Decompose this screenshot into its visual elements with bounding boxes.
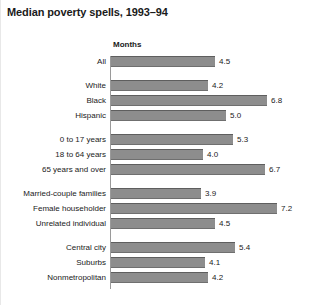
bar-value-label: 5.0 (230, 111, 241, 121)
bar-category-label: All (0, 57, 106, 67)
bar-value-label: 5.4 (239, 243, 250, 253)
bar-value-label: 4.1 (209, 258, 220, 268)
bar-row: Female householder7.2 (1, 203, 319, 215)
bar-row: Central city5.4 (1, 242, 319, 254)
bar (111, 80, 208, 91)
bar-category-label: Hispanic (0, 111, 106, 121)
bar (111, 257, 205, 268)
bar-category-label: Nonmetropolitan (0, 273, 106, 283)
axis-unit-header: Months (113, 40, 141, 49)
bar-category-label: Married-couple families (0, 189, 106, 199)
bar-row: 0 to 17 years5.3 (1, 134, 319, 146)
chart-title: Median poverty spells, 1993–94 (7, 6, 168, 18)
bar-row: All4.5 (1, 56, 319, 68)
bar-row: 65 years and over6.7 (1, 164, 319, 176)
bar-row: White4.2 (1, 80, 319, 92)
bar (111, 56, 215, 67)
bar (111, 203, 277, 214)
bar-value-label: 6.8 (271, 96, 282, 106)
bar-value-label: 4.0 (207, 150, 218, 160)
bar (111, 218, 215, 229)
plot-area: All4.5White4.2Black6.8Hispanic5.00 to 17… (1, 56, 319, 296)
bar (111, 110, 226, 121)
chart-figure: Median poverty spells, 1993–94 Months Al… (0, 0, 319, 305)
bar (111, 149, 203, 160)
bar-category-label: Female householder (0, 204, 106, 214)
bar-value-label: 3.9 (205, 189, 216, 199)
bar-value-label: 4.5 (219, 219, 230, 229)
bar (111, 164, 265, 175)
bar-category-label: Suburbs (0, 258, 106, 268)
bar (111, 188, 201, 199)
bar-category-label: 0 to 17 years (0, 135, 106, 145)
bar-category-label: Black (0, 96, 106, 106)
bar-value-label: 4.2 (212, 273, 223, 283)
bar-row: Suburbs4.1 (1, 257, 319, 269)
bar (111, 134, 233, 145)
bar-value-label: 4.5 (219, 57, 230, 67)
bar-category-label: 65 years and over (0, 165, 106, 175)
bar-value-label: 6.7 (269, 165, 280, 175)
bar-value-label: 4.2 (212, 81, 223, 91)
bar-category-label: Central city (0, 243, 106, 253)
bar-row: Hispanic5.0 (1, 110, 319, 122)
bar (111, 95, 267, 106)
bar-row: Unrelated individual4.5 (1, 218, 319, 230)
bar-category-label: 18 to 64 years (0, 150, 106, 160)
bar-category-label: Unrelated individual (0, 219, 106, 229)
bar (111, 242, 235, 253)
bar-row: Married-couple families3.9 (1, 188, 319, 200)
bar-value-label: 5.3 (237, 135, 248, 145)
bar-row: 18 to 64 years4.0 (1, 149, 319, 161)
bar-row: Nonmetropolitan4.2 (1, 272, 319, 284)
bar-category-label: White (0, 81, 106, 91)
bar-row: Black6.8 (1, 95, 319, 107)
bar (111, 272, 208, 283)
bar-value-label: 7.2 (281, 204, 292, 214)
